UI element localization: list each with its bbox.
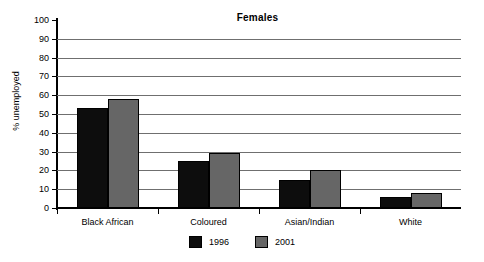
x-axis-tick-mark bbox=[158, 208, 159, 214]
bar-1996[interactable] bbox=[279, 180, 310, 208]
y-axis-tick-label: 40 bbox=[39, 128, 49, 137]
bar-2001[interactable] bbox=[209, 153, 240, 208]
y-axis-tick-label: 30 bbox=[39, 147, 49, 156]
y-axis-tick-label: 70 bbox=[39, 72, 49, 81]
legend-item-2001[interactable]: 2001 bbox=[255, 236, 295, 248]
y-axis-tick-label: 60 bbox=[39, 91, 49, 100]
bar-group bbox=[259, 20, 360, 208]
y-axis-tick-label: 10 bbox=[39, 185, 49, 194]
y-axis-tick-label: 20 bbox=[39, 166, 49, 175]
bar-1996[interactable] bbox=[178, 161, 209, 208]
bar-2001[interactable] bbox=[310, 170, 341, 208]
legend-label: 2001 bbox=[275, 237, 295, 247]
bar-group bbox=[158, 20, 259, 208]
bar-group bbox=[360, 20, 461, 208]
y-axis-tick-label: 80 bbox=[39, 53, 49, 62]
y-axis-tick-label: 0 bbox=[44, 204, 49, 213]
plot-area: 0102030405060708090100 bbox=[57, 20, 461, 208]
bar-1996[interactable] bbox=[380, 197, 411, 208]
chart-legend: 19962001 bbox=[0, 236, 484, 248]
y-axis-tick-label: 100 bbox=[34, 16, 49, 25]
bar-2001[interactable] bbox=[108, 99, 139, 208]
bar-1996[interactable] bbox=[77, 108, 108, 208]
x-axis-category-label: Asian/Indian bbox=[285, 217, 335, 227]
bar-chart: Females % unemployed 0102030405060708090… bbox=[0, 0, 484, 262]
x-axis-tick-mark bbox=[360, 208, 361, 214]
y-axis-tick-label: 90 bbox=[39, 34, 49, 43]
x-axis-category-label: Coloured bbox=[190, 217, 227, 227]
legend-swatch-2001 bbox=[255, 236, 268, 248]
x-axis-category-label: Black African bbox=[81, 217, 133, 227]
x-axis-tick-mark bbox=[57, 208, 58, 214]
x-axis-tick-mark bbox=[259, 208, 260, 214]
y-axis-label: % unemployed bbox=[11, 41, 21, 161]
bar-group bbox=[57, 20, 158, 208]
legend-label: 1996 bbox=[209, 237, 229, 247]
legend-swatch-1996 bbox=[189, 236, 202, 248]
legend-item-1996[interactable]: 1996 bbox=[189, 236, 229, 248]
bar-2001[interactable] bbox=[411, 193, 442, 208]
bar-groups bbox=[57, 20, 461, 208]
x-axis-category-label: White bbox=[399, 217, 422, 227]
y-axis-tick-label: 50 bbox=[39, 110, 49, 119]
